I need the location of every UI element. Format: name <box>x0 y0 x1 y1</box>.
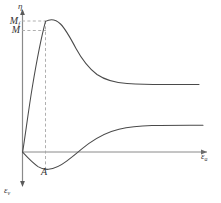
guide-lines <box>22 21 46 169</box>
curve-eta-upper <box>23 20 199 152</box>
y-axis-down-label-subscript: v <box>8 190 11 196</box>
curve-epsilon-v-lower <box>23 125 203 169</box>
x-axis-label-subscript: a <box>205 156 208 162</box>
y-axis <box>20 9 25 187</box>
x-axis <box>22 150 207 155</box>
y-axis-down-label: εv <box>4 186 10 195</box>
y-axis-label: η <box>18 2 22 11</box>
x-axis-label: εa <box>201 152 208 161</box>
figure-container: η εa εv Mf M A <box>0 0 221 203</box>
y-axis-arrowhead-down <box>20 181 25 187</box>
plot-canvas <box>0 0 221 203</box>
tick-label-m: M <box>1 25 20 35</box>
point-label-a: A <box>41 167 47 177</box>
